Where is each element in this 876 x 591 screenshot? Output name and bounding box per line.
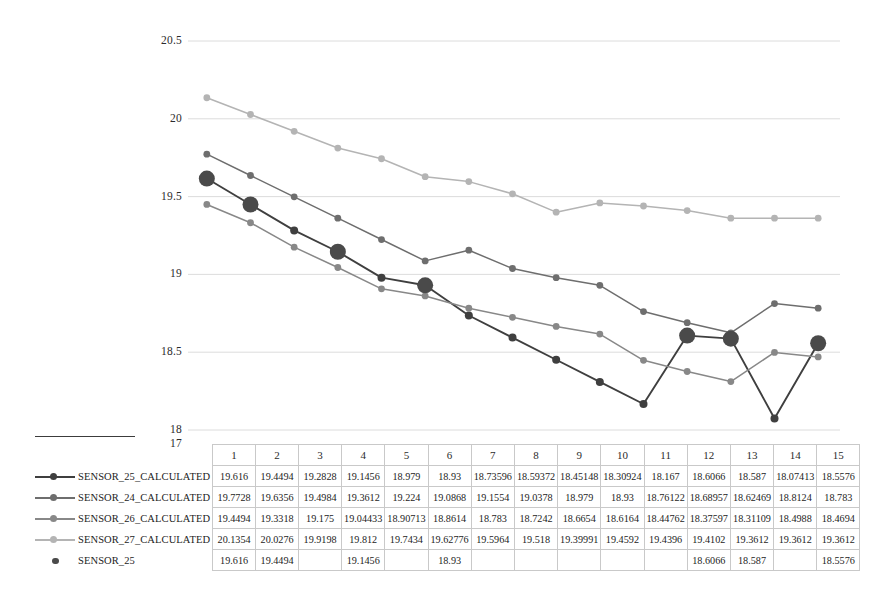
data-point-marker (810, 335, 826, 351)
table-cell: 18.4694 (817, 508, 860, 529)
data-point-marker (465, 178, 472, 185)
legend-entry[interactable]: SENSOR_27_CALCULATED (33, 529, 213, 550)
table-cell: 19.7728 (213, 487, 256, 508)
y-axis-tick-label: 18 (122, 423, 182, 435)
table-cell (385, 550, 428, 571)
table-column-header: 5 (385, 445, 428, 466)
table-cell: 19.39991 (558, 529, 601, 550)
data-point-marker (378, 285, 385, 292)
table-column-header: 14 (774, 445, 817, 466)
data-point-marker (640, 400, 648, 408)
legend-dot-swatch (52, 558, 59, 565)
legend-dot-swatch (50, 536, 57, 543)
table-cell: 19.4494 (213, 508, 256, 529)
data-point-marker (771, 414, 779, 422)
data-point-marker (378, 236, 385, 243)
data-point-marker (684, 368, 691, 375)
y-axis-tick-label: 18.5 (122, 345, 182, 357)
table-cell (601, 550, 644, 571)
data-point-marker (553, 274, 560, 281)
table-cell: 19.2828 (299, 466, 342, 487)
data-point-marker (291, 193, 298, 200)
table-cell: 19.4592 (601, 529, 644, 550)
data-point-marker (684, 207, 691, 214)
table-cell: 19.1554 (471, 487, 514, 508)
table-row: SENSOR_24_CALCULATED19.772819.635619.498… (33, 487, 860, 508)
data-point-marker (727, 378, 734, 385)
table-cell: 19.4494 (256, 550, 299, 571)
data-point-marker (553, 323, 560, 330)
table-column-header: 2 (256, 445, 299, 466)
legend-entry[interactable]: SENSOR_24_CALCULATED (33, 487, 213, 508)
data-point-marker (465, 311, 473, 319)
table-cell: 18.167 (644, 466, 687, 487)
data-point-marker (330, 244, 346, 260)
table-cell: 19.616 (213, 466, 256, 487)
table-row: SENSOR_27_CALCULATED20.135420.027619.919… (33, 529, 860, 550)
data-point-marker (771, 215, 778, 222)
data-point-marker (771, 300, 778, 307)
table-cell: 18.979 (385, 466, 428, 487)
table-column-header: 3 (299, 445, 342, 466)
table-cell: 20.1354 (213, 529, 256, 550)
table-cell: 19.518 (514, 529, 557, 550)
series-sensor-27-calculated (203, 94, 821, 221)
data-point-marker (290, 226, 298, 234)
data-point-marker (596, 282, 603, 289)
data-point-marker (815, 354, 822, 361)
legend-dot-swatch (50, 515, 57, 522)
table-cell: 18.44762 (644, 508, 687, 529)
table-cell: 18.5576 (817, 550, 860, 571)
table-cell: 18.8124 (774, 487, 817, 508)
legend-entry[interactable]: SENSOR_25_CALCULATED (33, 466, 213, 487)
data-point-marker (417, 277, 433, 293)
legend-label: SENSOR_26_CALCULATED (78, 513, 210, 524)
data-point-marker (509, 334, 517, 342)
table-cell: 18.90713 (385, 508, 428, 529)
figure-container: 20.52019.51918.51817 1234567891011121314… (0, 0, 876, 591)
y-axis-tick-label: 20 (122, 112, 182, 124)
table-cell: 19.6356 (256, 487, 299, 508)
data-point-marker (334, 145, 341, 152)
data-point-marker (291, 128, 298, 135)
legend-entry[interactable]: SENSOR_25 (33, 550, 213, 571)
data-point-marker (422, 257, 429, 264)
table-cell: 18.73596 (471, 466, 514, 487)
table-cell: 19.812 (342, 529, 385, 550)
data-point-marker (640, 308, 647, 315)
series-line (207, 98, 818, 218)
table-cell: 19.4102 (687, 529, 730, 550)
table-cell: 18.93 (428, 466, 471, 487)
table-header: 123456789101112131415 (33, 445, 860, 466)
chart-svg (188, 30, 840, 442)
data-point-marker (422, 293, 429, 300)
legend-dot-swatch (50, 473, 57, 480)
table-cell (514, 550, 557, 571)
table-cell: 18.76122 (644, 487, 687, 508)
data-point-marker (291, 244, 298, 251)
legend-label: SENSOR_25_CALCULATED (78, 471, 210, 482)
table-row: SENSOR_26_CALCULATED19.449419.331819.175… (33, 508, 860, 529)
table-cell: 18.59372 (514, 466, 557, 487)
table-cell: 18.6164 (601, 508, 644, 529)
data-point-marker (596, 200, 603, 207)
table-cell: 18.07413 (774, 466, 817, 487)
legend-marker-icon (35, 513, 75, 525)
data-point-marker (771, 349, 778, 356)
data-point-marker (203, 201, 210, 208)
data-point-marker (203, 151, 210, 158)
data-point-marker (552, 356, 560, 364)
series-sensor-24-calculated (203, 151, 821, 336)
data-point-marker (640, 203, 647, 210)
table-column-header: 13 (730, 445, 773, 466)
table-column-header: 15 (817, 445, 860, 466)
legend-entry[interactable]: SENSOR_26_CALCULATED (33, 508, 213, 529)
table-cell: 18.8614 (428, 508, 471, 529)
legend-dot-swatch (50, 494, 57, 501)
table-cell: 18.783 (471, 508, 514, 529)
table-cell: 18.587 (730, 550, 773, 571)
data-point-marker (640, 357, 647, 364)
data-point-marker (247, 111, 254, 118)
legend-marker-icon (35, 534, 75, 546)
table-cell: 19.4984 (299, 487, 342, 508)
